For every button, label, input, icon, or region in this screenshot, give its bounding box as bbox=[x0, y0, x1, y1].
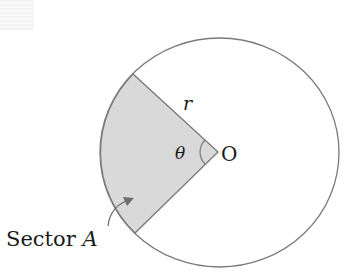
center-label: O bbox=[221, 142, 237, 166]
sector-label-name: A bbox=[80, 227, 97, 251]
sector-label: Sector A bbox=[6, 227, 98, 251]
circle-sector-diagram: r θ O Sector A bbox=[0, 0, 358, 272]
angle-label: θ bbox=[175, 143, 185, 163]
radius-label: r bbox=[183, 92, 194, 114]
sector-label-prefix: Sector bbox=[6, 227, 82, 251]
